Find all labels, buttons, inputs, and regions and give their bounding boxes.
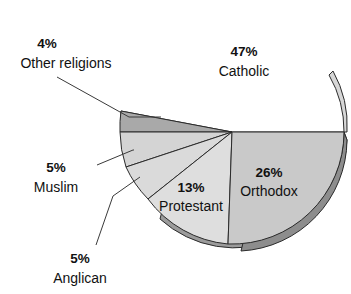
pie-slices-group (120, 111, 344, 244)
orthodox-percent-text: 26% (255, 165, 282, 180)
callout-anglican: 5% Anglican (53, 251, 107, 286)
muslim-percent-text: 5% (46, 160, 66, 175)
pie-depth-rim-top-right (329, 71, 347, 132)
inside-label-catholic: 47% Catholic (219, 44, 270, 79)
protestant-percent-text: 13% (177, 180, 204, 195)
orthodox-label-text: Orthodox (240, 183, 298, 199)
protestant-label-text: Protestant (159, 198, 223, 214)
pie-chart-figure: 47% Catholic 26% Orthodox 13% Protestant… (0, 0, 351, 294)
callout-other-religions: 4% Other religions (20, 36, 111, 71)
muslim-label-text: Muslim (34, 179, 78, 195)
anglican-label-text: Anglican (53, 270, 107, 286)
leader-line-anglican (96, 177, 140, 245)
anglican-percent-text: 5% (70, 251, 90, 266)
callout-muslim: 5% Muslim (34, 160, 78, 195)
pie-chart-canvas: 47% Catholic 26% Orthodox 13% Protestant… (0, 0, 351, 294)
other-religions-label-text: Other religions (20, 55, 111, 71)
other-religions-percent-text: 4% (37, 36, 57, 51)
pie-slice-other-religions[interactable] (120, 111, 232, 132)
catholic-label-text: Catholic (219, 63, 270, 79)
catholic-percent-text: 47% (230, 44, 257, 59)
leader-line-other-religions (57, 77, 161, 117)
